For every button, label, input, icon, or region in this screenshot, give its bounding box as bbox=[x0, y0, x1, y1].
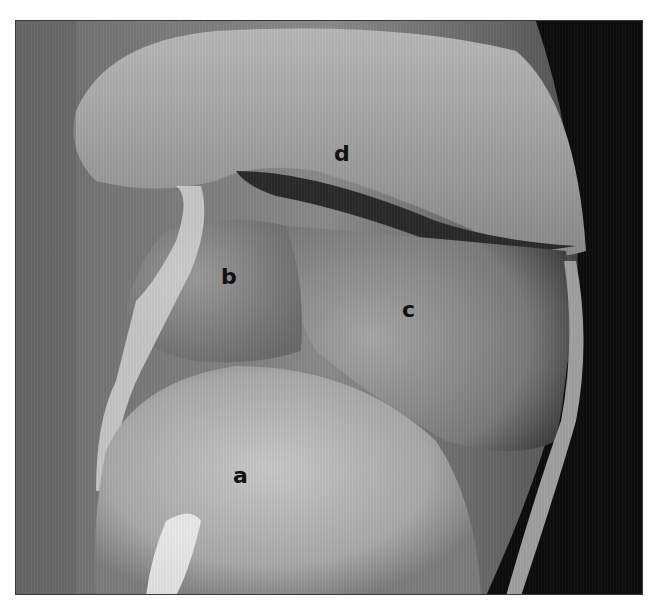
photo-frame: a b c d bbox=[15, 20, 643, 595]
label-c: c bbox=[402, 299, 415, 321]
label-d: d bbox=[334, 143, 350, 165]
label-a: a bbox=[233, 465, 248, 487]
anatomical-photo bbox=[16, 21, 643, 595]
label-b: b bbox=[221, 266, 237, 288]
